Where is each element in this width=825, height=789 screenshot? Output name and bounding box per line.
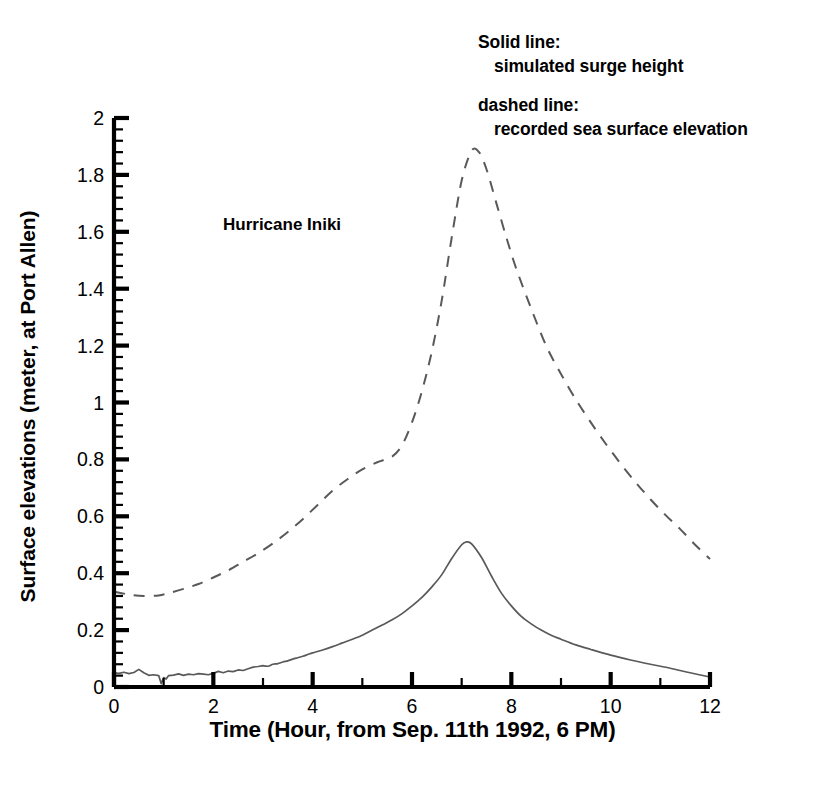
x-tick-label: 0 <box>109 695 120 718</box>
y-axis-title: Surface elevations (meter, at Port Allen… <box>16 122 56 691</box>
y-tick-label: 1.2 <box>77 334 104 357</box>
data-curves <box>114 148 710 683</box>
y-tick-label: 2 <box>93 107 104 130</box>
legend-solid-line1: Solid line: <box>478 32 561 52</box>
series-recorded-sea-surface-elevation <box>114 148 710 596</box>
y-tick-label: 0 <box>93 676 104 699</box>
x-tick-label: 2 <box>208 695 219 718</box>
y-tick-label: 0.6 <box>77 505 104 528</box>
y-tick-label: 1.8 <box>77 163 104 186</box>
y-tick-label: 1 <box>93 391 104 414</box>
legend-dashed-line2: recorded sea surface elevation <box>478 117 748 141</box>
y-tick-label: 0.2 <box>77 619 104 642</box>
y-tick-label: 0.4 <box>77 562 104 585</box>
legend-dashed-line1: dashed line: <box>478 95 579 115</box>
chart-figure: Solid line:simulated surge height dashed… <box>0 0 825 789</box>
legend-annotation-solid: Solid line:simulated surge height <box>478 30 683 78</box>
y-tick-label: 1.6 <box>77 220 104 243</box>
y-tick-label: 1.4 <box>77 277 104 300</box>
x-tick-label: 12 <box>699 695 721 718</box>
series-simulated-surge-height <box>114 542 710 684</box>
axis-spines-and-ticks <box>114 118 710 687</box>
legend-annotation-dashed: dashed line:recorded sea surface elevati… <box>478 93 748 141</box>
y-tick-label: 0.8 <box>77 448 104 471</box>
x-axis-title: Time (Hour, from Sep. 11th 1992, 6 PM) <box>0 717 825 743</box>
legend-solid-line2: simulated surge height <box>478 54 683 78</box>
storm-label: Hurricane Iniki <box>223 215 341 235</box>
x-tick-label: 4 <box>307 695 318 718</box>
x-tick-label: 8 <box>506 695 517 718</box>
x-tick-label: 10 <box>600 695 622 718</box>
x-tick-label: 6 <box>407 695 418 718</box>
